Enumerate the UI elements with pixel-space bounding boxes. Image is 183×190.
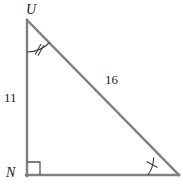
geometry-figure: U N 11 16	[0, 0, 183, 190]
side-length-label-hypotenuse: 16	[105, 73, 118, 86]
vertex-label-U: U	[26, 3, 36, 17]
angle-arc-right-vertex-icon	[148, 158, 154, 176]
right-angle-square-icon	[27, 162, 40, 175]
vertex-label-N: N	[6, 166, 15, 180]
triangle-drawing	[0, 0, 183, 190]
triangle-side-hypotenuse	[27, 20, 179, 175]
side-length-label-leg: 11	[4, 91, 17, 104]
angle-arc-U-icon	[27, 43, 50, 53]
